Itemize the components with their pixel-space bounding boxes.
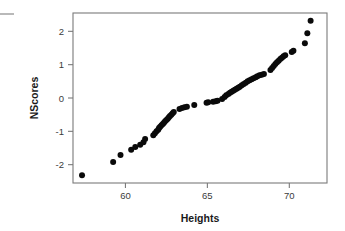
y-tick-label: 2 bbox=[59, 26, 64, 37]
data-point bbox=[302, 40, 308, 46]
data-point bbox=[282, 52, 288, 58]
scatter-plot-canvas: 606570 -2-1012 Heights NScores bbox=[0, 0, 345, 231]
plot-frame bbox=[73, 13, 327, 183]
x-tick-label: 70 bbox=[284, 190, 295, 201]
y-tick-label: -1 bbox=[56, 126, 64, 137]
qq-plot-figure: 606570 -2-1012 Heights NScores bbox=[0, 0, 345, 231]
data-point bbox=[79, 172, 85, 178]
data-point bbox=[142, 136, 148, 142]
data-point bbox=[191, 102, 197, 108]
data-point bbox=[171, 109, 177, 115]
x-axis-ticks: 606570 bbox=[120, 183, 294, 201]
y-axis-ticks: -2-1012 bbox=[56, 26, 73, 170]
y-tick-label: 1 bbox=[59, 59, 64, 70]
data-point bbox=[290, 48, 296, 54]
data-points-group bbox=[79, 18, 314, 179]
data-point bbox=[304, 30, 310, 36]
x-axis-title: Heights bbox=[181, 212, 220, 224]
x-tick-label: 65 bbox=[202, 190, 213, 201]
y-axis-title: NScores bbox=[28, 77, 40, 120]
data-point bbox=[110, 159, 116, 165]
data-point bbox=[308, 18, 314, 24]
data-point bbox=[118, 152, 124, 158]
y-tick-label: -2 bbox=[56, 159, 64, 170]
x-tick-label: 60 bbox=[120, 190, 131, 201]
y-tick-label: 0 bbox=[59, 93, 64, 104]
plot-frame-rect bbox=[73, 13, 327, 183]
data-point bbox=[261, 71, 267, 77]
data-point bbox=[184, 104, 190, 110]
